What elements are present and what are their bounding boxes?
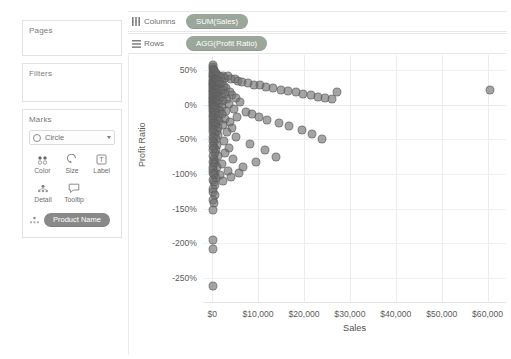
rows-shelf[interactable]: Rows AGG(Profit Ratio) <box>128 33 507 54</box>
x-tick-label: $10,000 <box>243 309 274 319</box>
scatter-mark[interactable] <box>251 157 260 166</box>
scatter-mark[interactable] <box>285 122 294 131</box>
gridline-horizontal <box>203 105 506 106</box>
tableau-worksheet: Pages Filters Marks Circle <box>0 0 511 359</box>
y-tick-label: 50% <box>180 65 197 75</box>
circle-icon <box>33 134 41 142</box>
size-icon <box>66 153 78 166</box>
scatter-mark[interactable] <box>260 146 269 155</box>
mark-type-value: Circle <box>45 133 64 142</box>
pill-agg-profit-ratio[interactable]: AGG(Profit Ratio) <box>186 36 267 51</box>
pill-sum-sales[interactable]: SUM(Sales) <box>186 14 248 29</box>
rows-shelf-label: Rows <box>144 39 186 48</box>
scatter-mark[interactable] <box>274 119 283 128</box>
scatter-mark[interactable] <box>209 282 218 291</box>
color-button[interactable]: Color <box>29 150 56 174</box>
x-tick-label: $30,000 <box>334 309 365 319</box>
mark-type-select[interactable]: Circle <box>29 130 115 145</box>
color-dots-icon <box>37 153 48 166</box>
detail-button-label: Detail <box>34 196 51 203</box>
pages-card-title: Pages <box>23 21 121 35</box>
color-button-label: Color <box>34 167 50 174</box>
scatter-mark[interactable] <box>308 129 317 138</box>
tooltip-button-label: Tooltip <box>64 196 84 203</box>
plot-canvas[interactable] <box>203 55 506 303</box>
mark-property-row-2: Detail Tooltip <box>29 179 115 203</box>
scatter-plot-viz[interactable]: Profit Ratio 50%0%-50%-100%-150%-200%-25… <box>128 55 507 355</box>
scatter-mark[interactable] <box>485 86 494 95</box>
label-button-label: Label <box>93 167 110 174</box>
scatter-mark[interactable] <box>272 152 281 161</box>
gridline-horizontal <box>203 243 506 244</box>
filters-card-title: Filters <box>23 64 121 78</box>
pages-card[interactable]: Pages <box>22 20 122 56</box>
gridline-horizontal <box>203 70 506 71</box>
tooltip-icon <box>68 182 80 195</box>
x-tick-label: $50,000 <box>426 309 457 319</box>
y-axis-ticks: 50%0%-50%-100%-150%-200%-250% <box>149 55 201 303</box>
gridline-vertical <box>442 55 443 302</box>
scatter-mark[interactable] <box>333 87 342 96</box>
scatter-mark[interactable] <box>263 116 272 125</box>
scatter-mark[interactable] <box>209 235 218 244</box>
scatter-mark[interactable] <box>219 176 228 185</box>
detail-field-row: Product Name <box>29 211 115 229</box>
marks-card-title: Marks <box>23 110 121 124</box>
gridline-vertical <box>258 55 259 302</box>
columns-icon <box>131 17 141 26</box>
scatter-mark[interactable] <box>327 95 336 104</box>
gridline-vertical <box>396 55 397 302</box>
gridline-horizontal <box>203 278 506 279</box>
x-axis-title: Sales <box>203 323 506 333</box>
scatter-mark[interactable] <box>297 125 306 134</box>
label-text-icon: T <box>96 153 107 166</box>
y-tick-label: -200% <box>172 238 197 248</box>
y-tick-label: -250% <box>172 273 197 283</box>
detail-button[interactable]: Detail <box>29 179 57 203</box>
chevron-down-icon[interactable] <box>107 136 111 139</box>
y-tick-label: -150% <box>172 204 197 214</box>
size-button[interactable]: Size <box>59 150 86 174</box>
gridline-horizontal <box>203 174 506 175</box>
x-tick-label: $40,000 <box>380 309 411 319</box>
scatter-mark[interactable] <box>231 133 240 142</box>
scatter-mark[interactable] <box>222 127 231 136</box>
columns-shelf[interactable]: Columns SUM(Sales) <box>128 11 507 32</box>
scatter-mark[interactable] <box>209 244 218 253</box>
tooltip-button[interactable]: Tooltip <box>60 179 88 203</box>
x-tick-label: $60,000 <box>472 309 503 319</box>
scatter-mark[interactable] <box>318 134 327 143</box>
scatter-mark[interactable] <box>245 140 254 149</box>
gridline-vertical <box>350 55 351 302</box>
svg-text:T: T <box>100 156 104 163</box>
rows-icon <box>131 40 141 48</box>
gridline-horizontal <box>203 209 506 210</box>
scatter-mark[interactable] <box>235 168 244 177</box>
marks-sidebar: Pages Filters Marks Circle <box>22 20 122 245</box>
pill-product-name[interactable]: Product Name <box>44 213 110 227</box>
filters-card[interactable]: Filters <box>22 63 122 102</box>
y-tick-label: -100% <box>172 169 197 179</box>
label-button[interactable]: T Label <box>88 150 115 174</box>
columns-shelf-label: Columns <box>144 17 186 26</box>
y-tick-label: -50% <box>177 134 197 144</box>
detail-icon <box>37 182 49 195</box>
scatter-mark[interactable] <box>227 173 236 182</box>
y-axis-title: Profit Ratio <box>137 153 147 167</box>
x-axis-ticks: $0$10,000$20,000$30,000$40,000$50,000$60… <box>203 305 506 321</box>
marks-card[interactable]: Marks Circle Color <box>22 109 122 238</box>
scatter-mark[interactable] <box>229 155 238 164</box>
scatter-mark[interactable] <box>208 205 217 214</box>
size-button-label: Size <box>65 167 78 174</box>
detail-icon <box>29 211 40 229</box>
mark-property-row-1: Color Size T <box>29 150 115 174</box>
y-tick-label: 0% <box>185 100 197 110</box>
x-tick-label: $20,000 <box>288 309 319 319</box>
x-tick-label: $0 <box>207 309 217 319</box>
